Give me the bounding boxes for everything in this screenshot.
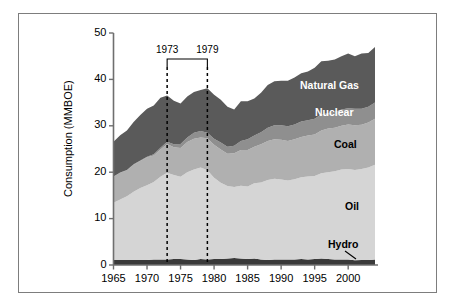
y-tick-label-0: 0: [76, 258, 107, 270]
x-tick-label-2000: 2000: [328, 272, 368, 284]
annotation-1973: 1973: [145, 44, 189, 55]
annotation-1979: 1979: [185, 44, 229, 55]
y-axis-label: Consumption (MMBOE): [62, 80, 74, 197]
y-tick-label-10: 10: [76, 211, 107, 223]
series-label-oil: Oil: [345, 200, 359, 212]
y-tick-label-50: 50: [76, 26, 107, 38]
y-tick-label-20: 20: [76, 165, 107, 177]
y-tick-label-40: 40: [76, 72, 107, 84]
y-tick-label-30: 30: [76, 118, 107, 130]
series-label-coal: Coal: [334, 138, 357, 150]
series-label-hydro: Hydro: [328, 238, 358, 250]
chart-figure-frame: [18, 13, 437, 293]
series-label-natural-gas: Natural Gas: [300, 79, 359, 91]
series-label-nuclear: Nuclear: [315, 106, 354, 118]
